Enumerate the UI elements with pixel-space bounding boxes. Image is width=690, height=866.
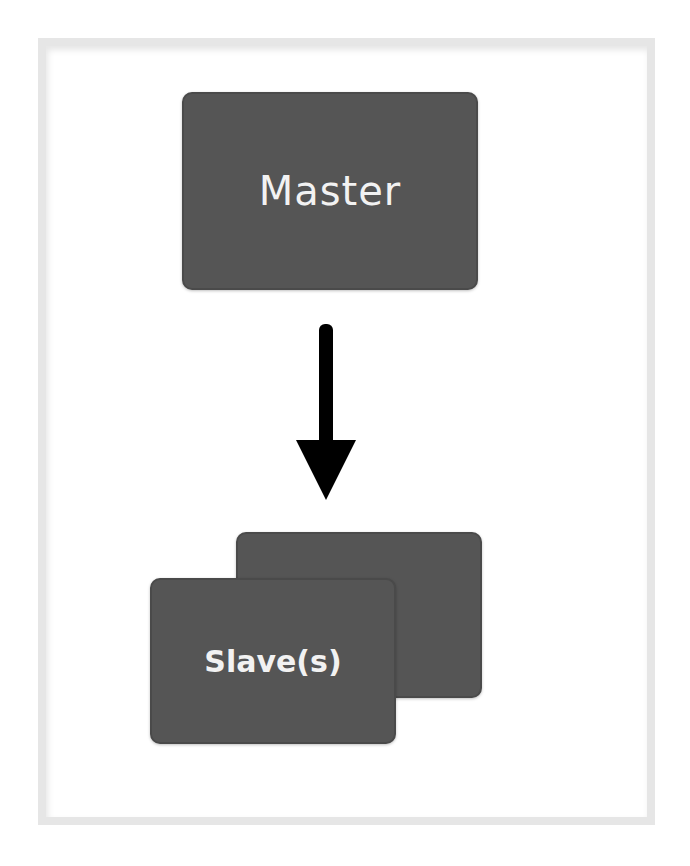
master-label: Master <box>259 168 402 214</box>
master-node: Master <box>182 92 478 290</box>
slave-node: Slave(s) <box>150 578 396 744</box>
slave-label: Slave(s) <box>204 644 341 679</box>
arrow-down-icon <box>296 320 356 502</box>
